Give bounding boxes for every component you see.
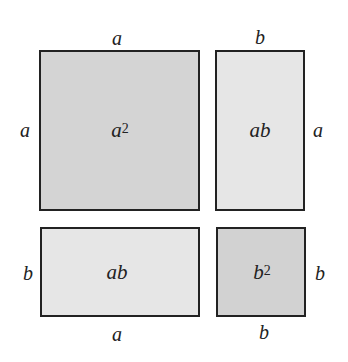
area-exponent: 2	[122, 121, 129, 136]
dimension-label-bottom-a: a	[112, 324, 122, 344]
region-b-squared-label: b2	[253, 262, 271, 283]
area-exponent: 2	[264, 263, 271, 278]
region-a-squared-label: a2	[111, 120, 129, 141]
area-base: a	[111, 118, 122, 142]
dimension-label-top-a: a	[112, 28, 122, 48]
area-base: b	[253, 260, 264, 284]
dimension-label-bottom-b: b	[259, 322, 269, 342]
dimension-label-right-a: a	[313, 120, 323, 140]
region-ab-bottom-label: ab	[107, 262, 128, 283]
dimension-label-right-b: b	[315, 263, 325, 283]
region-ab-top-label: ab	[250, 120, 271, 141]
dimension-label-left-a: a	[20, 120, 30, 140]
dimension-label-left-b: b	[23, 263, 33, 283]
dimension-label-top-b: b	[255, 27, 265, 47]
